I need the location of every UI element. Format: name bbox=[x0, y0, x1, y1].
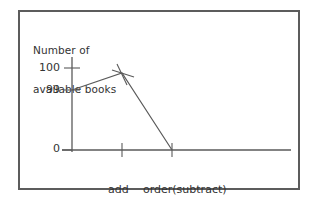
x-label-add-line-1: add bbox=[108, 184, 129, 196]
x-tick-label-order-subtract: order(subtract) 100 bbox=[143, 160, 227, 202]
y-tick-label-99: 99 bbox=[28, 84, 60, 96]
x-label-order-line-1: order(subtract) bbox=[143, 184, 227, 196]
y-tick-label-100: 100 bbox=[28, 62, 60, 74]
figure-screenshot: Number of available books 100 99 0 add o… bbox=[0, 0, 315, 202]
x-tick-label-add-one: add one bbox=[108, 160, 129, 202]
y-tick-label-0: 0 bbox=[28, 143, 60, 155]
inventory-series-line bbox=[72, 73, 172, 150]
